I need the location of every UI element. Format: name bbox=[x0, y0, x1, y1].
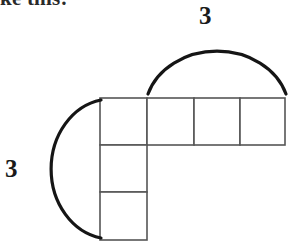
top-dimension-brace-arc bbox=[148, 51, 286, 94]
grid-cell-row0-col1 bbox=[147, 98, 194, 145]
figure-drawing-canvas bbox=[0, 0, 293, 243]
left-dimension-label: 3 bbox=[5, 156, 18, 181]
polyomino-grid bbox=[100, 98, 285, 240]
top-dimension-label: 3 bbox=[199, 3, 212, 28]
grid-cell-row2-col0 bbox=[100, 192, 147, 240]
grid-cell-row0-col0 bbox=[100, 98, 147, 145]
grid-cell-row1-col0 bbox=[100, 145, 147, 192]
polyomino-figure: like this: 3 3 bbox=[0, 0, 293, 243]
grid-cell-row0-col3 bbox=[240, 98, 285, 145]
left-dimension-brace-arc bbox=[51, 100, 101, 238]
grid-cell-row0-col2 bbox=[194, 98, 240, 145]
